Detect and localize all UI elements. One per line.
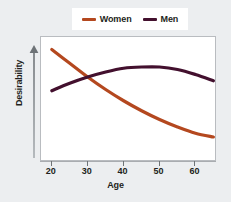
x-tick-label: 40 [110, 166, 136, 176]
y-axis: Desirability [6, 45, 40, 160]
series-line-men [52, 67, 214, 91]
legend-item-men: Men [143, 15, 179, 24]
legend-label-women: Women [100, 15, 132, 24]
x-tick-label: 30 [74, 166, 100, 176]
legend-label-men: Men [161, 15, 179, 24]
chart-legend: Women Men [72, 8, 188, 30]
x-tick-label: 50 [146, 166, 172, 176]
x-tick-label: 20 [38, 166, 64, 176]
chart-figure: Women Men Desirability 203040 [0, 0, 231, 202]
x-axis: 2030405060 [40, 161, 216, 181]
plot-curves [41, 37, 217, 162]
x-axis-line [40, 161, 216, 162]
y-axis-title: Desirability [14, 48, 24, 118]
legend-swatch-women-line-icon [82, 18, 96, 21]
x-tick-label: 60 [181, 166, 207, 176]
legend-swatch-men-line-icon [143, 18, 157, 21]
arrow-up-icon [28, 45, 40, 158]
plot-area [40, 36, 216, 161]
legend-item-women: Women [82, 15, 132, 24]
series-line-women [52, 50, 214, 138]
x-axis-title: Age [0, 180, 231, 190]
